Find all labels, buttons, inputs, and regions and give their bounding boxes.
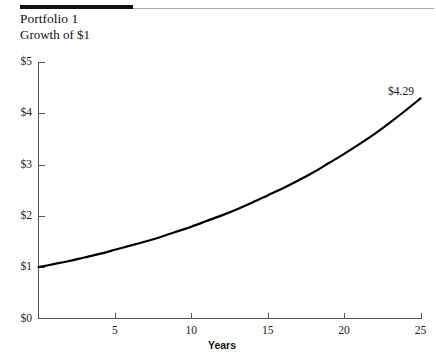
chart-page: Portfolio 1 Growth of $1 $0$1$2$3$4$5 51… (0, 0, 436, 358)
y-tick-label: $1 (4, 260, 32, 272)
x-tick-label: 15 (253, 324, 283, 336)
y-tick-label: $5 (4, 55, 32, 67)
series-line-growth-of-1 (39, 98, 421, 267)
x-tick-label: 20 (329, 324, 359, 336)
x-tick-label: 10 (176, 324, 206, 336)
y-tick-label: $4 (4, 106, 32, 118)
y-tick-label: $3 (4, 158, 32, 170)
y-tick-label: $0 (4, 312, 32, 324)
x-tick-marks (116, 313, 422, 319)
x-axis-title: Years (182, 339, 262, 351)
y-tick-label: $2 (4, 209, 32, 221)
x-tick-label: 25 (406, 324, 436, 336)
x-tick-label: 5 (100, 324, 130, 336)
y-tick-marks (39, 63, 45, 268)
series-endpoint-label: $4.29 (388, 85, 414, 97)
axes-group (39, 62, 421, 319)
chart-plot-area: $0$1$2$3$4$5 510152025 Years $4.29 (0, 0, 436, 358)
chart-svg (0, 0, 436, 358)
